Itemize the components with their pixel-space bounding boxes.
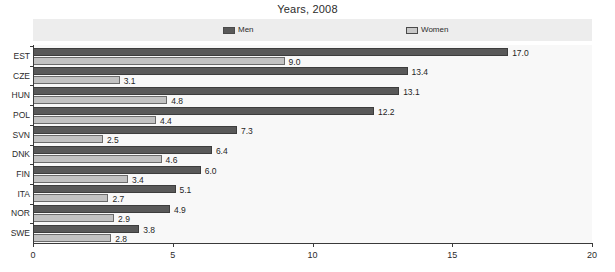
y-axis-category-label: ITA [0, 189, 30, 199]
bar-women [33, 116, 156, 124]
bar-value-men: 4.9 [174, 206, 186, 214]
bar-women [33, 96, 167, 104]
x-axis-tick-label: 0 [30, 250, 35, 260]
y-axis-line [33, 45, 34, 243]
bar-value-men: 5.1 [180, 186, 192, 194]
x-axis-tick-label: 5 [170, 250, 175, 260]
bar-men [33, 185, 176, 193]
y-axis-category-label: HUN [0, 90, 30, 100]
bar-women [33, 234, 111, 242]
bar-value-women: 2.9 [118, 215, 130, 223]
legend-item-men: Men [223, 26, 254, 34]
legend-item-women: Women [406, 26, 448, 34]
x-axis-tick [173, 243, 174, 247]
y-axis-category-label: SWE [0, 228, 30, 238]
bar-chart: Years, 2008 Men Women EST17.09.0CZE13.43… [0, 0, 615, 272]
x-axis-tick-label: 20 [587, 250, 597, 260]
bar-men [33, 67, 408, 75]
bar-value-men: 3.8 [143, 226, 155, 234]
bar-value-men: 12.2 [378, 108, 395, 116]
bar-women [33, 175, 128, 183]
bar-value-men: 7.3 [241, 127, 253, 135]
bar-women [33, 76, 120, 84]
x-axis-tick [592, 243, 593, 247]
bar-men [33, 225, 139, 233]
bar-men [33, 205, 170, 213]
bar-women [33, 57, 285, 65]
x-axis-tick [33, 243, 34, 247]
bar-value-women: 4.8 [171, 97, 183, 105]
bar-women [33, 194, 108, 202]
x-axis-tick-label: 15 [447, 250, 457, 260]
x-axis-tick [452, 243, 453, 247]
bar-value-women: 9.0 [289, 58, 301, 66]
bar-women [33, 214, 114, 222]
bar-value-women: 3.1 [124, 77, 136, 85]
bar-value-men: 6.0 [205, 167, 217, 175]
y-axis-category-label: CZE [0, 71, 30, 81]
bar-value-men: 13.4 [412, 68, 429, 76]
bar-men [33, 146, 212, 154]
bar-women [33, 135, 103, 143]
y-axis-category-label: SVN [0, 130, 30, 140]
bar-men [33, 107, 374, 115]
x-axis-tick-label: 10 [307, 250, 317, 260]
x-axis-tick [313, 243, 314, 247]
legend-label-women: Women [421, 26, 448, 34]
bar-value-women: 2.7 [112, 195, 124, 203]
bar-value-women: 2.8 [115, 235, 127, 243]
bar-men [33, 126, 237, 134]
bar-value-women: 2.5 [107, 136, 119, 144]
bar-value-women: 4.4 [160, 117, 172, 125]
women-swatch-icon [406, 27, 418, 34]
bar-value-men: 6.4 [216, 147, 228, 155]
y-axis-category-label: DNK [0, 149, 30, 159]
bar-value-men: 17.0 [512, 49, 529, 57]
bar-women [33, 155, 162, 163]
bar-men [33, 87, 399, 95]
y-axis-category-label: FIN [0, 169, 30, 179]
bar-men [33, 166, 201, 174]
chart-title: Years, 2008 [0, 3, 615, 15]
chart-legend: Men Women [33, 19, 592, 41]
bar-value-women: 4.6 [166, 156, 178, 164]
y-axis-category-label: NOR [0, 208, 30, 218]
legend-label-men: Men [238, 26, 254, 34]
bar-value-women: 3.4 [132, 176, 144, 184]
y-axis-category-label: EST [0, 51, 30, 61]
y-axis-category-label: POL [0, 110, 30, 120]
bar-value-men: 13.1 [403, 88, 420, 96]
bar-men [33, 48, 508, 56]
men-swatch-icon [223, 27, 235, 34]
